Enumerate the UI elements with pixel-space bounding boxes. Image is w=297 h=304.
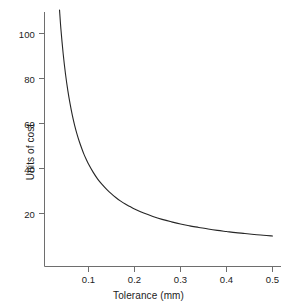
x-tick-label-0.4: 0.4	[220, 274, 234, 285]
chart-figure: 100 80 60 40 20 0.1 0.2 0.3 0.4 0.5 Tole…	[0, 0, 297, 304]
y-tick-label-80: 80	[10, 73, 35, 84]
x-tick-label-0.5: 0.5	[266, 274, 280, 285]
x-axis-ticks	[89, 267, 273, 273]
x-tick-label-0.1: 0.1	[82, 274, 96, 285]
y-tick-label-100: 100	[10, 28, 35, 39]
y-axis-title: Units of cost	[25, 124, 36, 180]
x-axis-title: Tolerance (mm)	[0, 290, 297, 301]
cost-curve	[60, 10, 273, 236]
plot-area	[0, 0, 297, 304]
y-tick-label-20: 20	[10, 208, 35, 219]
y-axis-ticks	[39, 34, 45, 214]
x-tick-label-0.2: 0.2	[128, 274, 142, 285]
x-tick-label-0.3: 0.3	[174, 274, 188, 285]
